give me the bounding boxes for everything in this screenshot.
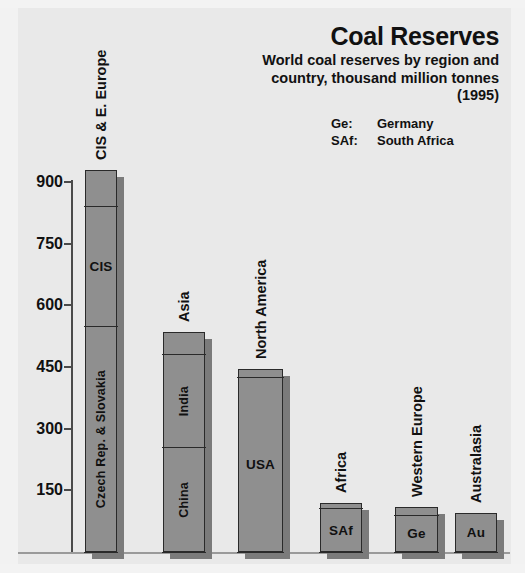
bar-segment[interactable]: India: [162, 355, 205, 448]
y-tick-label: 600: [15, 297, 63, 313]
bar-group[interactable]: Ge: [395, 507, 438, 552]
bar-segment-label: CIS: [89, 259, 112, 274]
bar-group[interactable]: SAf: [320, 503, 362, 552]
bar-group[interactable]: Czech Rep. & SlovakiaCIS: [85, 170, 117, 552]
bar-segment[interactable]: Ge: [394, 516, 438, 553]
bar-category-label-text: CIS & E. Europe: [94, 49, 109, 159]
bar-segment-label: Au: [467, 525, 485, 540]
bar[interactable]: Czech Rep. & SlovakiaCIS: [85, 170, 117, 552]
y-tick-label: 750: [15, 236, 63, 252]
bar-group[interactable]: ChinaIndia: [163, 332, 205, 552]
bar-segment-label: SAf: [329, 523, 353, 538]
bar-group[interactable]: Au: [455, 513, 497, 552]
y-tick-label: 450: [15, 359, 63, 375]
bar-segment[interactable]: [84, 170, 117, 207]
bar-category-label: Asia: [177, 291, 192, 322]
y-tick-mark: [64, 489, 72, 491]
coal-reserves-chart: Coal Reserves World coal reserves by reg…: [0, 0, 525, 573]
bar-segment-label: Ge: [407, 526, 425, 541]
bar-segment[interactable]: China: [162, 448, 205, 553]
bar[interactable]: Ge: [395, 507, 438, 552]
y-tick-mark: [64, 181, 72, 183]
bar-group[interactable]: USA: [238, 369, 283, 552]
y-tick-label: 150: [15, 482, 63, 498]
bar-category-label: CIS & E. Europe: [94, 49, 109, 159]
bar-category-label-text: Western Europe: [409, 386, 424, 497]
bar-segment-label: USA: [246, 457, 275, 472]
bar-segment-label: India: [177, 386, 191, 416]
bar-segment[interactable]: USA: [237, 378, 283, 553]
bar[interactable]: ChinaIndia: [163, 332, 205, 552]
bar-segment[interactable]: [394, 507, 438, 515]
plot-area: 150300450600750900 Czech Rep. & Slovakia…: [0, 0, 525, 573]
bar-segment[interactable]: [162, 333, 205, 356]
bar-category-label: Western Europe: [409, 386, 424, 497]
bar[interactable]: Au: [455, 513, 497, 552]
y-tick-label: 900: [15, 174, 63, 190]
bar-category-label: North America: [253, 260, 268, 359]
bar-category-label-text: Asia: [177, 291, 192, 322]
y-tick-label: 300: [15, 421, 63, 437]
bar-segment[interactable]: Czech Rep. & Slovakia: [84, 326, 117, 552]
bar-category-label-text: North America: [253, 260, 268, 359]
bar-category-label-text: Australasia: [469, 425, 484, 503]
bar-segment[interactable]: [319, 503, 362, 509]
bar-segment-label: China: [177, 482, 191, 518]
y-tick-mark: [64, 304, 72, 306]
bar-category-label: Africa: [334, 452, 349, 493]
y-tick-mark: [64, 366, 72, 368]
bar-segment-label: Czech Rep. & Slovakia: [94, 370, 108, 508]
y-tick-mark: [64, 428, 72, 430]
bar[interactable]: SAf: [320, 503, 362, 552]
y-tick-mark: [64, 243, 72, 245]
bar-segment[interactable]: [237, 370, 283, 378]
bar-category-label-text: Africa: [334, 452, 349, 493]
bar-segment[interactable]: CIS: [84, 207, 117, 326]
bar-category-label: Australasia: [469, 425, 484, 503]
bar[interactable]: USA: [238, 369, 283, 552]
bar-segment[interactable]: SAf: [319, 509, 362, 552]
bar-segment[interactable]: Au: [454, 514, 497, 553]
